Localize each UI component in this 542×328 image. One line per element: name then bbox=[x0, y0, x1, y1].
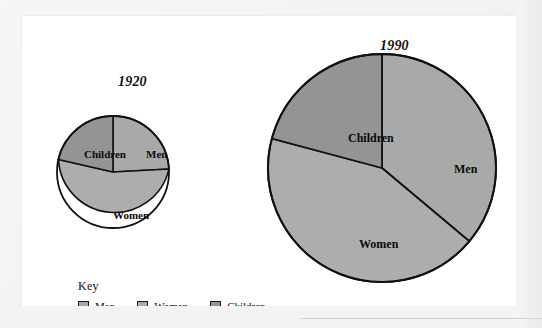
figure-panel: 1920 1990 Children Men Women Children Me… bbox=[22, 16, 516, 306]
slice-label-1990-women: Women bbox=[359, 237, 398, 252]
slice-label-1920-children: Children bbox=[84, 148, 126, 160]
chart-title-1990: 1990 bbox=[380, 38, 409, 54]
page-background: 1920 1990 Children Men Women Children Me… bbox=[0, 0, 542, 328]
legend-title: Key bbox=[78, 279, 288, 294]
page-right-margin bbox=[516, 0, 542, 328]
slice-label-1920-women: Women bbox=[113, 209, 149, 221]
slice-label-1990-children: Children bbox=[348, 131, 394, 146]
slice-label-1990-men: Men bbox=[454, 162, 477, 177]
page-bottom-margin bbox=[0, 306, 542, 328]
chart-title-1920: 1920 bbox=[118, 74, 147, 90]
slice-label-1920-men: Men bbox=[146, 148, 167, 160]
page-edge-rule bbox=[300, 318, 542, 319]
pie-charts-canvas bbox=[22, 16, 516, 306]
